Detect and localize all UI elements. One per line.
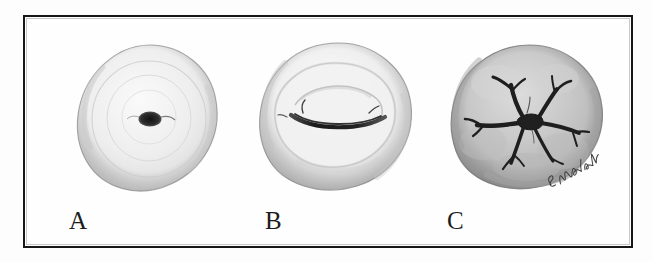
panel-label-b: B — [265, 208, 282, 233]
cervix-stellate-os-illustration — [435, 39, 621, 197]
figure-frame: A — [23, 15, 633, 248]
figure-root: A — [0, 0, 652, 262]
specimen-c-stellate-os — [435, 39, 621, 197]
panel-a: A — [65, 39, 235, 235]
cervix-slit-os-illustration — [243, 39, 429, 197]
specimen-b-slit-os — [243, 39, 429, 197]
specimen-a-round-os — [65, 39, 235, 197]
panel-label-c: C — [447, 208, 464, 233]
panel-b: B — [243, 39, 429, 235]
panel-label-a: A — [69, 208, 88, 233]
cervix-round-os-illustration — [65, 39, 235, 197]
panel-c: E. Walsh C — [435, 39, 621, 235]
